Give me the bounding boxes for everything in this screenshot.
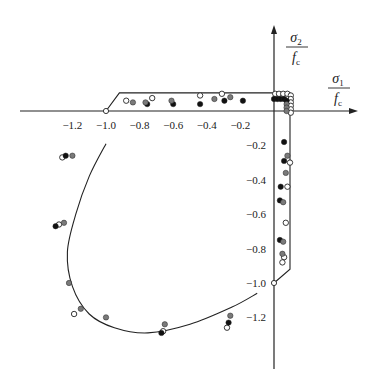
data-point-open — [283, 220, 288, 225]
data-point-gray — [283, 170, 288, 175]
tick-labels: −1.2−1.0−0.8−0.6−0.4−0.2−0.2−0.4−0.6−0.8… — [62, 119, 266, 323]
compression-envelope-curve — [67, 144, 257, 333]
data-point-gray — [228, 95, 233, 100]
data-point-black — [281, 139, 286, 144]
data-point-gray — [169, 98, 174, 103]
data-point-gray — [284, 108, 289, 113]
data-point-black — [240, 98, 245, 103]
data-point-open — [280, 260, 285, 265]
x-tick-label: −0.2 — [230, 119, 250, 131]
data-point-gray — [281, 239, 286, 244]
y-tick-label: −0.8 — [246, 243, 266, 255]
x-axis-label-denominator: fc — [334, 91, 342, 108]
y-tick-label: −0.2 — [246, 139, 266, 151]
x-tick-label: −0.4 — [197, 119, 217, 131]
x-tick-label: −0.6 — [163, 119, 183, 131]
data-point-black — [63, 153, 68, 158]
data-point-black — [278, 184, 283, 189]
data-point-gray — [103, 315, 108, 320]
uniaxial-marker — [103, 108, 108, 113]
data-point-black — [53, 224, 58, 229]
data-point-black — [159, 330, 164, 335]
biaxial-strength-chart: −1.2−1.0−0.8−0.6−0.4−0.2−0.2−0.4−0.6−0.8… — [0, 0, 377, 388]
data-point-open — [71, 311, 76, 316]
data-point-gray — [285, 153, 290, 158]
data-point-open — [287, 160, 292, 165]
axis-labels: σ2fcσ1fc — [286, 30, 350, 108]
data-point-gray — [66, 280, 71, 285]
data-point-gray — [61, 220, 66, 225]
y-axis-label-numerator: σ2 — [290, 30, 301, 47]
data-point-gray — [70, 153, 75, 158]
y-tick-label: −1.2 — [246, 311, 266, 323]
y-axis-label-denominator: fc — [292, 50, 300, 67]
data-point-black — [226, 320, 231, 325]
data-point-gray — [212, 96, 217, 101]
data-point-gray — [281, 200, 286, 205]
data-point-gray — [228, 313, 233, 318]
data-point-black — [197, 101, 202, 106]
x-tick-label: −1.2 — [62, 119, 82, 131]
data-point-open — [219, 91, 224, 96]
y-tick-label: −0.6 — [246, 208, 266, 220]
y-tick-label: −0.4 — [246, 174, 266, 186]
data-point-open — [224, 325, 229, 330]
axes — [20, 25, 358, 369]
y-tick-label: −1.0 — [246, 277, 266, 289]
data-point-gray — [78, 306, 83, 311]
data-point-open — [197, 93, 202, 98]
data-point-gray — [130, 100, 135, 105]
x-tick-label: −0.8 — [130, 119, 150, 131]
data-point-gray — [280, 251, 285, 256]
data-point-black — [281, 158, 286, 163]
x-axis-label-numerator: σ1 — [332, 71, 343, 88]
data-point-open — [285, 184, 290, 189]
data-point-gray — [162, 322, 167, 327]
data-point-open — [124, 98, 129, 103]
data-point-black — [222, 98, 227, 103]
x-tick-label: −1.0 — [96, 119, 116, 131]
uniaxial-marker — [271, 280, 276, 285]
data-point-open — [150, 95, 155, 100]
y-axis-arrow-icon — [271, 25, 277, 34]
x-axis-arrow-icon — [349, 108, 358, 114]
data-point-gray — [143, 100, 148, 105]
